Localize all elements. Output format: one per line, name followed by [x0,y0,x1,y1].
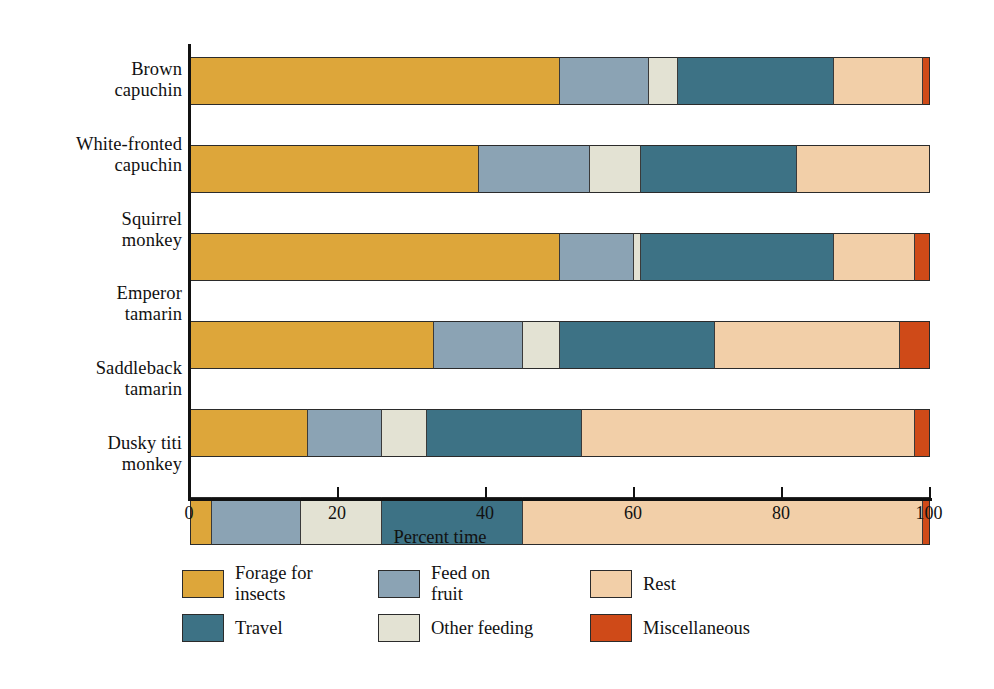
category-label: White-frontedcapuchin [4,134,182,176]
legend-swatch [590,614,632,642]
legend-item[interactable]: Rest [590,570,790,598]
legend-item[interactable]: Travel [182,614,378,642]
x-tick [929,487,931,498]
category-label-line: Brown [4,59,182,80]
bar-segment [715,321,900,369]
category-label-line: tamarin [4,379,182,400]
bar-segment [900,321,930,369]
bar-row [190,409,930,484]
bar-segment [190,409,308,457]
bar-row [190,57,930,132]
legend-item[interactable]: Feed onfruit [378,563,590,605]
bar-segment [560,321,715,369]
bar-segment [308,409,382,457]
bar-segment [634,233,641,281]
legend-label: Miscellaneous [643,618,750,639]
legend-swatch [182,614,224,642]
bar-segment [923,57,930,105]
legend-label-line: fruit [431,584,490,605]
legend-item[interactable]: Forage forinsects [182,563,378,605]
bar-row [190,233,930,308]
bar-segment [434,321,523,369]
x-tick-label: 20 [307,503,367,524]
bar-segment [678,57,833,105]
legend-label-line: insects [235,584,313,605]
x-axis-title-text: Percent time [394,527,487,547]
legend-label: Rest [643,574,676,595]
bar-segment [190,233,560,281]
stacked-bar [190,321,930,369]
x-tick [485,487,487,498]
category-label: Dusky titimonkey [4,433,182,475]
legend-label: Feed onfruit [431,563,490,605]
bar-segment [560,233,634,281]
bar-segment [915,409,930,457]
x-axis-line [188,498,932,501]
category-label-line: capuchin [4,155,182,176]
legend-swatch [378,570,420,598]
bar-segment [523,321,560,369]
legend-item[interactable]: Miscellaneous [590,614,790,642]
stacked-bar-chart: BrowncapuchinWhite-frontedcapuchinSquirr… [0,0,994,689]
stacked-bar [190,233,930,281]
bar-segment [797,145,930,193]
legend-swatch [378,614,420,642]
category-axis-labels: BrowncapuchinWhite-frontedcapuchinSquirr… [0,44,182,492]
legend-item[interactable]: Other feeding [378,614,590,642]
category-label: Browncapuchin [4,59,182,101]
bar-segment [190,145,479,193]
category-label-line: White-fronted [4,134,182,155]
x-axis-title: Percent time [0,527,994,548]
legend-label: Travel [235,618,283,639]
legend-label-line: Forage for [235,563,313,584]
category-label-line: monkey [4,454,182,475]
bar-segment [190,57,560,105]
category-label: Saddlebacktamarin [4,358,182,400]
bar-segment [560,57,649,105]
legend-swatch [182,570,224,598]
category-label: Emperortamarin [4,283,182,325]
category-label: Squirrelmonkey [4,209,182,251]
category-label-line: Emperor [4,283,182,304]
y-axis-line [188,44,191,499]
stacked-bar [190,409,930,457]
x-tick-label: 80 [751,503,811,524]
bar-row [190,321,930,396]
x-tick [633,487,635,498]
legend-label: Forage forinsects [235,563,313,605]
bar-segment [641,233,833,281]
bar-segment [382,409,426,457]
stacked-bar [190,57,930,105]
legend-swatch [590,570,632,598]
bar-row [190,145,930,220]
x-tick [337,487,339,498]
bar-segment [834,233,915,281]
category-label-line: Dusky titi [4,433,182,454]
category-label-line: tamarin [4,304,182,325]
bar-segment [834,57,923,105]
plot-area [190,44,930,492]
bar-segment [641,145,796,193]
x-tick [189,487,191,498]
bar-segment [582,409,915,457]
bar-segment [190,321,434,369]
stacked-bar [190,145,930,193]
bar-segment [590,145,642,193]
bar-segment [915,233,930,281]
x-tick-label: 100 [899,503,959,524]
bar-segment [427,409,582,457]
category-label-line: capuchin [4,80,182,101]
legend-label-line: Feed on [431,563,490,584]
bar-segment [479,145,590,193]
category-label-line: Squirrel [4,209,182,230]
category-label-line: monkey [4,230,182,251]
x-tick [781,487,783,498]
x-tick-label: 40 [455,503,515,524]
x-tick-label: 0 [159,503,219,524]
bar-segment [649,57,679,105]
x-tick-label: 60 [603,503,663,524]
legend: Forage forinsectsFeed onfruitRestTravelO… [182,562,822,650]
category-label-line: Saddleback [4,358,182,379]
legend-label: Other feeding [431,618,533,639]
